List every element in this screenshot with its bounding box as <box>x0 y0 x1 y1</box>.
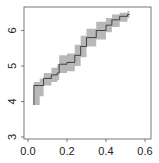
y-tick-label: 3 <box>6 134 18 140</box>
x-tick-label: 0.0 <box>20 145 35 157</box>
chart: 0.00.20.40.6 3456 <box>0 0 159 163</box>
confidence-band <box>34 11 130 135</box>
x-tick-label: 0.2 <box>59 145 74 157</box>
y-tick-label: 6 <box>6 27 18 33</box>
estimate-line <box>34 15 130 106</box>
x-tick-label: 0.6 <box>137 145 152 157</box>
confidence-band-area <box>34 11 130 135</box>
x-tick-label: 0.4 <box>98 145 113 157</box>
y-axis: 3456 <box>6 27 24 140</box>
step-line <box>34 15 130 106</box>
plot-frame <box>24 7 151 139</box>
x-axis: 0.00.20.40.6 <box>20 139 152 157</box>
y-tick-label: 4 <box>6 98 18 104</box>
y-tick-label: 5 <box>6 63 18 69</box>
